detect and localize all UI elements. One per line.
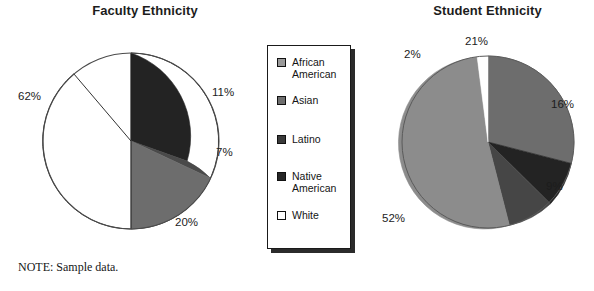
legend-item-white[interactable]: White — [277, 209, 319, 221]
student-label-native-american: 2% — [404, 48, 421, 60]
legend-label-asian: Asian — [292, 94, 318, 106]
legend-swatch-native-american — [277, 172, 286, 181]
legend-item-asian[interactable]: Asian — [277, 94, 318, 106]
faculty-label-african-american: 11% — [212, 86, 234, 98]
legend-label-white: White — [292, 209, 319, 221]
legend-label-african-american: African American — [292, 56, 336, 80]
faculty-label-white: 62% — [18, 90, 41, 102]
student-label-latino: 9% — [546, 180, 563, 192]
student-label-asian: 16% — [551, 98, 574, 110]
legend-label-latino: Latino — [292, 133, 321, 145]
faculty-label-latino: 20% — [175, 216, 198, 228]
student-pie-svg — [402, 56, 574, 228]
legend-item-african-american[interactable]: African American — [277, 56, 336, 80]
figure-container: Faculty Ethnicity Student Ethnicity 62% … — [0, 0, 594, 291]
faculty-label-asian: 7% — [216, 146, 233, 158]
student-chart-title: Student Ethnicity — [385, 3, 590, 18]
student-pie-chart — [402, 56, 574, 228]
student-label-white: 52% — [382, 212, 405, 224]
legend-swatch-white — [277, 211, 286, 220]
faculty-pie-chart — [40, 50, 222, 232]
legend-label-native-american: Native American — [292, 170, 336, 194]
legend-swatch-latino — [277, 135, 286, 144]
legend-swatch-asian — [277, 96, 286, 105]
legend-box: African American Asian Latino Native Ame… — [267, 45, 351, 249]
legend-item-latino[interactable]: Latino — [277, 133, 321, 145]
figure-note: NOTE: Sample data. — [18, 260, 118, 275]
faculty-chart-title: Faculty Ethnicity — [0, 3, 290, 18]
faculty-pie-svg — [40, 50, 222, 232]
student-label-african-american: 21% — [465, 35, 488, 47]
legend-item-native-american[interactable]: Native American — [277, 170, 336, 194]
legend-swatch-african-american — [277, 58, 286, 67]
